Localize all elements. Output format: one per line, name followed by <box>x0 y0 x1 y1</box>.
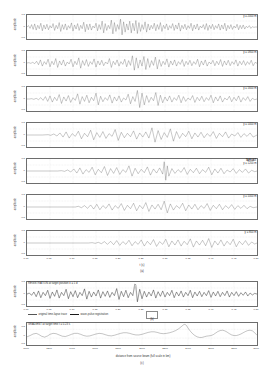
traces-xtick-1: 0.05 <box>43 257 55 260</box>
panel-6-label: y = 1000 m <box>243 195 256 198</box>
gradient-panel: GRADIENT at target time t = 0.23 s ampli… <box>26 322 258 346</box>
panel-2-ytick-mid: 0 <box>19 61 25 64</box>
registration-panel: REGISTRATION at target position x = 1 d … <box>26 281 258 307</box>
panel-4-ytick-bot: -0.5 <box>19 144 25 147</box>
registration-xtick-7: 0.35 <box>182 308 194 311</box>
traces-xtick-0: 0.00 <box>20 257 32 260</box>
gradient-xtick-4: 1800 <box>111 347 125 350</box>
gradient-xtick-6: 2200 <box>158 347 172 350</box>
registration-xtick-9: 0.45 <box>228 308 240 311</box>
panel-6-ytick-mid: 0 <box>19 205 25 208</box>
traces-xtick-4: 0.20 <box>112 257 124 260</box>
gradient-xlabel: distance from source beam (full scale in… <box>88 354 198 358</box>
registration-title: REGISTRATION at target position x = 1 d <box>28 282 77 285</box>
traces-xlabel: t (s) <box>122 263 162 267</box>
traces-xtick-3: 0.15 <box>89 257 101 260</box>
registration-ytick-top: 0.5 <box>19 280 25 283</box>
gradient-xtick-2: 1400 <box>65 347 79 350</box>
subfigure-a-label: (a) <box>122 269 162 273</box>
gradient-ytick-top: 0.5 <box>19 325 25 328</box>
trace-panel-3: y = 1600 m amplitude 0.5 0 -0.5 <box>26 86 258 112</box>
gradient-xtick-8: 2600 <box>204 347 218 350</box>
panel-5-ytick-mid: 0 <box>19 169 25 172</box>
panel-1-axes <box>26 14 258 40</box>
panel-2-ytick-bot: -0.5 <box>19 72 25 75</box>
registration-ytick-mid: 0 <box>19 292 25 295</box>
gradient-title: GRADIENT at target time t = 0.23 s <box>28 323 70 326</box>
panel-7-axes <box>26 230 258 256</box>
legend-line-registration-icon <box>70 314 79 315</box>
panel-4-ytick-top: 0.5 <box>19 121 25 124</box>
panel-5-axes <box>26 158 258 184</box>
panel-7-ytick-mid: 0 <box>19 241 25 244</box>
panel-5-ytick-bot: -0.5 <box>19 180 25 183</box>
panel-6-axes <box>26 194 258 220</box>
gradient-xtick-7: 2400 <box>181 347 195 350</box>
panel-2-axes <box>26 50 258 76</box>
registration-xtick-1: 0.05 <box>43 308 55 311</box>
panel-2-label: y = 1800 m <box>243 51 256 54</box>
panel-5-ytick-top: 0.5 <box>19 157 25 160</box>
gradient-xtick-3: 1600 <box>88 347 102 350</box>
registration-xtick-0: 0.00 <box>20 308 32 311</box>
subfigure-b-label: (b) <box>138 317 166 321</box>
panel-1-label: y = 2000 m <box>243 15 256 18</box>
registration-axes <box>26 281 258 307</box>
subfigure-c-label: (c) <box>128 361 156 365</box>
gradient-plot <box>27 323 257 345</box>
gradient-xtick-10: 3000 <box>249 347 263 350</box>
trace-panel-7: y = 800 m amplitude 0.5 0 -0.5 <box>26 230 258 256</box>
panel-5-target-sublabel: y = 1200 m <box>243 162 256 165</box>
trace-panel-1: y = 2000 m amplitude 0.5 0 -0.5 <box>26 14 258 40</box>
legend-label-original: original time-lapse trace <box>39 313 68 316</box>
legend-label-registration: wave-pulse registration <box>81 313 109 316</box>
legend-line-original-icon <box>28 314 37 315</box>
panel-1-ytick-top: 0.5 <box>19 13 25 16</box>
traces-xtick-5: 0.25 <box>135 257 147 260</box>
legend-entry-registration: wave-pulse registration <box>70 313 108 316</box>
panel-3-label: y = 1600 m <box>243 87 256 90</box>
panel-7-ytick-bot: -0.5 <box>19 252 25 255</box>
trace-panel-2: y = 1800 m amplitude 0.5 0 -0.5 <box>26 50 258 76</box>
traces-xtick-10: 0.50 <box>250 257 262 260</box>
registration-xtick-4: 0.20 <box>112 308 124 311</box>
panel-4-label: y = 1400 m <box>243 123 256 126</box>
panel-7-label: y = 800 m <box>245 231 257 234</box>
panel-5-target-label: TARGET y = 1200 m <box>243 159 256 166</box>
panel-2-plot <box>27 51 257 75</box>
panel-6-plot <box>27 195 257 219</box>
panel-3-ytick-bot: -0.5 <box>19 108 25 111</box>
registration-xtick-6: 0.30 <box>159 308 171 311</box>
panel-2-ytick-top: 0.5 <box>19 49 25 52</box>
panel-3-ytick-mid: 0 <box>19 97 25 100</box>
gradient-ytick-mid: 0 <box>19 334 25 337</box>
registration-ytick-bot: -0.5 <box>19 303 25 306</box>
legend-entry-original: original time-lapse trace <box>28 313 67 316</box>
registration-xtick-8: 0.40 <box>205 308 217 311</box>
panel-7-ytick-top: 0.5 <box>19 229 25 232</box>
registration-xtick-2: 0.10 <box>66 308 78 311</box>
traces-xtick-7: 0.35 <box>182 257 194 260</box>
trace-panel-6: y = 1000 m amplitude 0.5 0 -0.5 <box>26 194 258 220</box>
panel-3-axes <box>26 86 258 112</box>
traces-xtick-8: 0.40 <box>205 257 217 260</box>
panel-6-ytick-bot: -0.5 <box>19 216 25 219</box>
traces-xtick-9: 0.45 <box>228 257 240 260</box>
panel-3-ytick-top: 0.5 <box>19 85 25 88</box>
gradient-xtick-0: 1000 <box>19 347 33 350</box>
panel-1-plot <box>27 15 257 39</box>
gradient-xtick-5: 2000 <box>135 347 149 350</box>
traces-xtick-2: 0.10 <box>66 257 78 260</box>
panel-4-plot <box>27 123 257 147</box>
figure-root: y = 2000 m amplitude 0.5 0 -0.5 y = 1800… <box>0 0 267 376</box>
registration-plot <box>27 282 257 306</box>
panel-6-ytick-top: 0.5 <box>19 193 25 196</box>
panel-1-ytick-bot: -0.5 <box>19 36 25 39</box>
registration-xtick-10: 0.50 <box>250 308 262 311</box>
registration-legend: original time-lapse trace wave-pulse reg… <box>28 313 108 316</box>
panel-5-plot <box>27 159 257 183</box>
gradient-axes <box>26 322 258 346</box>
panel-7-plot <box>27 231 257 255</box>
trace-panel-4: y = 1400 m amplitude 0.5 0 -0.5 <box>26 122 258 148</box>
gradient-xtick-1: 1200 <box>42 347 56 350</box>
